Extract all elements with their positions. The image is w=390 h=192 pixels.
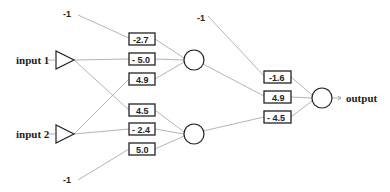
- edge-bias1-w: [78, 15, 129, 38]
- hidden-1-weights: -2.7 - 5.0 4.9: [129, 33, 155, 85]
- weight-value: 4.9: [136, 75, 149, 85]
- edge-h2-w: [203, 117, 264, 131]
- edge-w-h2: [155, 110, 184, 132]
- bias-label-output: -1: [197, 13, 205, 23]
- input-1-label: input 1: [16, 54, 49, 66]
- hidden-2-weights: 4.5 - 2.4 5.0: [129, 104, 155, 155]
- bias-label-hidden-2: -1: [63, 175, 71, 185]
- hidden-neuron-1: [184, 50, 204, 70]
- edge-in2-h1: [74, 79, 129, 134]
- edge-in1-w: [74, 59, 129, 60]
- weight-value: 5.0: [136, 145, 149, 155]
- weight-value: - 2.4: [132, 125, 150, 135]
- neural-network-diagram: input 1 input 2 -1 -1 -1 -2.7 - 5.0 4.9 …: [0, 0, 390, 192]
- edge-in2-w: [74, 129, 129, 134]
- edge-w-out: [291, 77, 312, 95]
- bias-label-hidden-1: -1: [63, 9, 71, 19]
- edge-bias2-w: [78, 149, 129, 180]
- edge-w-h1: [155, 39, 184, 58]
- edge-h1-w: [203, 64, 264, 96]
- weight-value: -2.7: [133, 35, 149, 45]
- input-1-triangle-icon: [56, 51, 74, 69]
- edge-in1-h2: [74, 60, 129, 110]
- edge-w-out: [291, 97, 312, 98]
- output-neuron: [312, 88, 332, 108]
- edge-w-h1: [155, 62, 184, 79]
- edge-bias3-w: [208, 16, 264, 76]
- output-weights: -1.6 4.9 - 4.5: [264, 71, 291, 123]
- input-2-label: input 2: [16, 128, 50, 140]
- input-2-triangle-icon: [56, 125, 74, 143]
- weight-value: -1.6: [269, 73, 285, 83]
- output-label: output: [346, 92, 378, 104]
- edge-w-out: [291, 101, 312, 117]
- edges: [48, 15, 341, 180]
- weight-value: 4.9: [272, 93, 285, 103]
- edge-w-h1: [155, 59, 184, 60]
- edge-w-h2: [155, 129, 184, 134]
- weight-value: - 5.0: [132, 55, 150, 65]
- weight-value: 4.5: [136, 106, 149, 116]
- edge-w-h2: [155, 136, 184, 149]
- hidden-neuron-2: [184, 124, 204, 144]
- weight-value: - 4.5: [267, 113, 285, 123]
